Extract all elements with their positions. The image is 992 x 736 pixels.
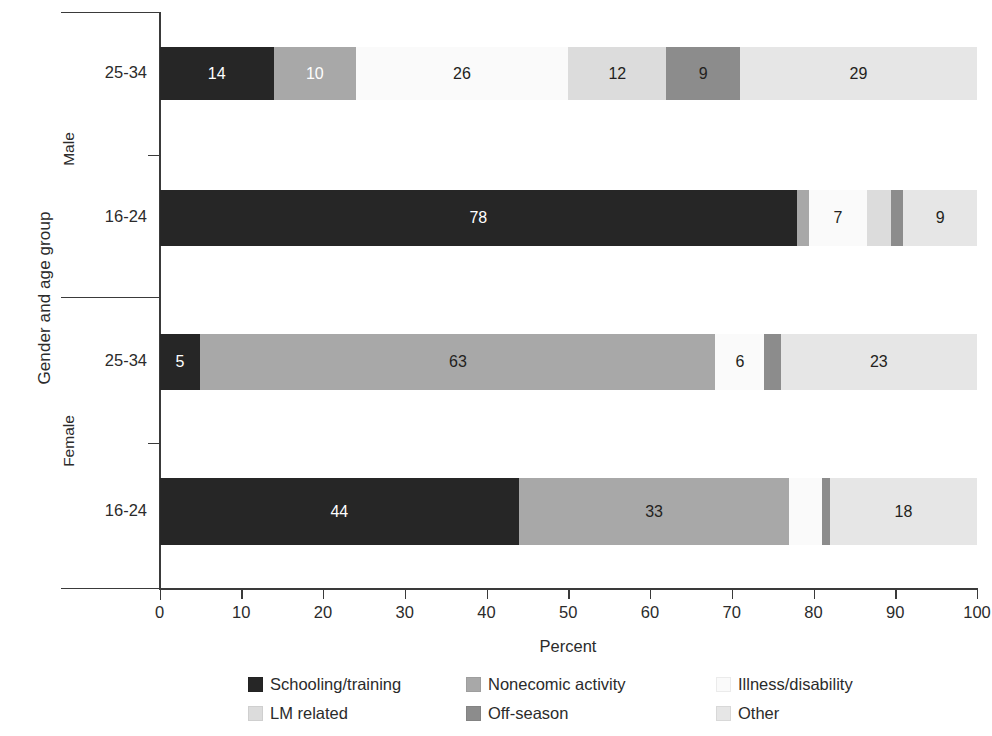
bar-segment-male-16-24-2: 7 [809,190,866,246]
legend-label: LM related [270,705,348,722]
bar-segment-male-25-34-0: 14 [160,47,274,100]
x-tick-label-90: 90 [886,603,904,622]
y-category-label-3: 16-24 [61,501,147,520]
x-tick-10 [241,588,242,599]
y-category-label-0: 25-34 [61,63,147,82]
y-minor-tick-1 [148,443,160,444]
legend-item-other[interactable]: Other [716,705,946,722]
bar-segment-female-25-34-0: 5 [160,334,201,390]
bar-segment-male-16-24-0: 78 [160,190,798,246]
bar-segment-male-16-24-5: 9 [903,190,977,246]
x-tick-0 [160,576,161,600]
group-divider-line [61,297,160,298]
segment-value-label: 33 [645,503,663,521]
bar-segment-female-16-24-2 [789,478,822,545]
group-top-cap-line [61,12,160,13]
legend-label: Off-season [488,705,568,722]
segment-value-label: 18 [894,503,912,521]
segment-value-label: 12 [608,65,626,83]
x-tick-label-50: 50 [559,603,577,622]
x-tick-label-100: 100 [963,603,991,622]
segment-value-label: 14 [208,65,226,83]
x-tick-label-80: 80 [804,603,822,622]
legend-swatch-icon [248,677,263,692]
group-label-male: Male [60,89,78,209]
bar-segment-female-25-34-2: 6 [715,334,764,390]
group-bottom-cap-line [61,588,160,589]
segment-value-label: 5 [175,353,184,371]
x-axis-title: Percent [159,637,977,656]
bar-segment-female-25-34-4: 23 [781,334,977,390]
bar-female-25-34: 563623 [160,334,978,390]
x-tick-80 [814,588,815,599]
legend-label: Other [738,705,779,722]
bar-male-25-34: 14102612929 [160,47,978,100]
x-tick-label-40: 40 [477,603,495,622]
group-label-female: Female [60,381,78,501]
legend-row-1: Schooling/trainingNonecomic activityIlln… [248,676,948,705]
x-tick-label-20: 20 [314,603,332,622]
legend-item-illness-disability[interactable]: Illness/disability [716,676,946,693]
segment-value-label: 44 [330,503,348,521]
segment-value-label: 7 [834,209,843,227]
chart-legend: Schooling/trainingNonecomic activityIlln… [248,676,948,734]
bar-segment-male-16-24-1 [797,190,809,246]
legend-swatch-icon [716,706,731,721]
bar-segment-female-16-24-0: 44 [160,478,520,545]
segment-value-label: 29 [850,65,868,83]
legend-label: Nonecomic activity [488,676,626,693]
segment-value-label: 63 [449,353,467,371]
bar-segment-male-25-34-3: 12 [568,47,666,100]
y-category-label-1: 16-24 [61,207,147,226]
legend-item-schooling-training[interactable]: Schooling/training [248,676,466,693]
bar-male-16-24: 7879 [160,190,978,246]
x-tick-20 [323,588,324,599]
legend-row-2: LM relatedOff-seasonOther [248,705,948,734]
segment-value-label: 26 [453,65,471,83]
x-tick-90 [895,588,896,599]
x-tick-label-60: 60 [641,603,659,622]
x-tick-label-0: 0 [155,603,164,622]
legend-swatch-icon [716,677,731,692]
bar-segment-female-16-24-4: 18 [830,478,977,545]
bar-segment-female-16-24-3 [822,478,830,545]
y-minor-tick-0 [148,155,160,156]
bar-segment-male-25-34-4: 9 [666,47,740,100]
bar-female-16-24: 443318 [160,478,978,545]
bar-segment-male-16-24-4 [891,190,903,246]
x-tick-label-70: 70 [723,603,741,622]
x-tick-70 [732,588,733,599]
x-tick-label-10: 10 [232,603,250,622]
bar-segment-male-25-34-5: 29 [740,47,977,100]
x-tick-100 [977,588,978,599]
y-axis-title: Gender and age group [35,148,55,448]
legend-item-lm-related[interactable]: LM related [248,705,466,722]
bar-segment-female-16-24-1: 33 [519,478,789,545]
segment-value-label: 78 [469,209,487,227]
legend-item-off-season[interactable]: Off-season [466,705,716,722]
bar-segment-female-25-34-1: 63 [200,334,715,390]
segment-value-label: 23 [870,353,888,371]
bar-segment-female-25-34-3 [764,334,780,390]
legend-swatch-icon [248,706,263,721]
x-tick-30 [405,588,406,599]
x-tick-60 [650,588,651,599]
segment-value-label: 6 [735,353,744,371]
legend-item-nonecomic-activity[interactable]: Nonecomic activity [466,676,716,693]
legend-label: Illness/disability [738,676,853,693]
x-tick-label-30: 30 [396,603,414,622]
y-category-label-2: 25-34 [61,351,147,370]
legend-swatch-icon [466,677,481,692]
legend-label: Schooling/training [270,676,401,693]
segment-value-label: 10 [306,65,324,83]
stacked-bar-chart: Gender and age group Male Female 25-3416… [0,0,992,736]
bar-segment-male-25-34-1: 10 [274,47,356,100]
x-tick-40 [487,588,488,599]
bar-segment-male-25-34-2: 26 [356,47,569,100]
x-tick-50 [568,588,569,599]
segment-value-label: 9 [936,209,945,227]
legend-swatch-icon [466,706,481,721]
segment-value-label: 9 [699,65,708,83]
bar-segment-male-16-24-3 [867,190,892,246]
